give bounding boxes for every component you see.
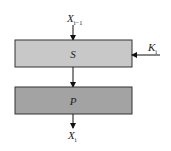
key-label: Ki — [147, 41, 157, 55]
s-box-label: S — [70, 48, 76, 60]
sp-network-diagram: Xi−1 S Ki P Xi — [0, 0, 171, 151]
output-label: Xi — [67, 129, 77, 143]
p-box-label: P — [69, 95, 77, 107]
input-label: Xi−1 — [66, 12, 82, 26]
